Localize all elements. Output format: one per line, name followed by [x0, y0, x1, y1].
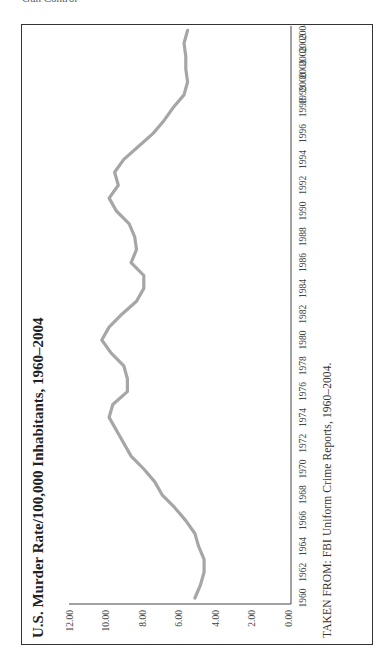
year-tick-label: 1974 [298, 408, 308, 427]
year-tick-label: 1992 [298, 175, 308, 194]
year-tick-label: 1982 [298, 304, 308, 323]
chart-source-caption: TAKEN FROM: FBI Uniform Crime Reports, 1… [321, 362, 333, 638]
murder-rate-line [102, 30, 204, 598]
year-tick-label: 1966 [298, 511, 308, 530]
value-tick-label: 6.00 [174, 610, 184, 627]
value-tick-label: 12.00 [65, 610, 75, 632]
year-tick-label: 2004 [298, 25, 308, 40]
year-tick-label: 1994 [298, 150, 308, 169]
year-tick-label: 1978 [298, 356, 308, 375]
value-tick-label: 8.00 [138, 610, 148, 627]
year-tick-label: 1986 [298, 253, 308, 272]
value-tick-label: 10.00 [101, 610, 111, 632]
value-tick-label: 4.00 [211, 610, 221, 627]
year-tick-label: 1960 [298, 588, 308, 607]
year-tick-label: 1968 [298, 485, 308, 504]
page-header-fragment: Gun Control [22, 0, 77, 4]
year-tick-label: 1972 [298, 433, 308, 452]
year-tick-label: 1990 [298, 201, 308, 220]
year-tick-label: 1996 [298, 124, 308, 143]
value-tick-label: 2.00 [247, 610, 257, 627]
year-tick-label: 1988 [298, 227, 308, 246]
year-tick-label: 1962 [298, 562, 308, 581]
value-tick-label: 0.00 [284, 610, 294, 627]
year-tick-label: 1970 [298, 459, 308, 478]
figure-frame: U.S. Murder Rate/100,000 Inhabitants, 19… [21, 24, 373, 645]
year-tick-label: 1980 [298, 330, 308, 349]
rotated-figure: U.S. Murder Rate/100,000 Inhabitants, 19… [22, 25, 374, 646]
year-tick-label: 1964 [298, 537, 308, 556]
year-tick-label: 1984 [298, 279, 308, 298]
year-tick-label: 1976 [298, 382, 308, 401]
